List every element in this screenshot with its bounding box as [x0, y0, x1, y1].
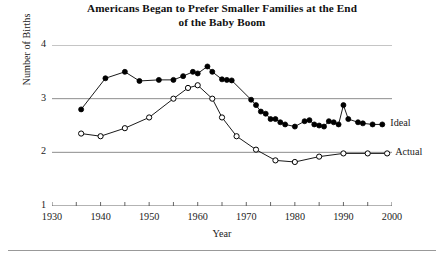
- x-tick-1970: 1970: [226, 211, 266, 222]
- x-tick-1940: 1940: [81, 211, 121, 222]
- x-tick-1980: 1980: [275, 211, 315, 222]
- chart-svg: [52, 45, 392, 206]
- plot-area: [52, 45, 392, 206]
- x-tick-1990: 1990: [323, 211, 363, 222]
- chart-title: Americans Began to Prefer Smaller Famili…: [0, 2, 444, 29]
- x-tick-1930: 1930: [32, 211, 72, 222]
- x-tick-2000: 2000: [372, 211, 412, 222]
- chart-title-line-1: Americans Began to Prefer Smaller Famili…: [87, 2, 357, 14]
- x-axis: [52, 202, 392, 206]
- chart-figure: Americans Began to Prefer Smaller Famili…: [0, 0, 444, 259]
- series-ideal: [79, 64, 385, 129]
- y-tick-3: 3: [30, 92, 46, 103]
- series-label-actual: Actual: [395, 146, 422, 157]
- chart-title-line-2: of the Baby Boom: [0, 16, 444, 30]
- x-axis-label: Year: [0, 228, 444, 239]
- y-tick-1: 1: [30, 199, 46, 210]
- bottom-rule: [8, 250, 436, 251]
- y-tick-4: 4: [30, 38, 46, 49]
- x-tick-1960: 1960: [178, 211, 218, 222]
- y-tick-2: 2: [30, 145, 46, 156]
- x-tick-1950: 1950: [129, 211, 169, 222]
- series-label-ideal: Ideal: [390, 117, 410, 128]
